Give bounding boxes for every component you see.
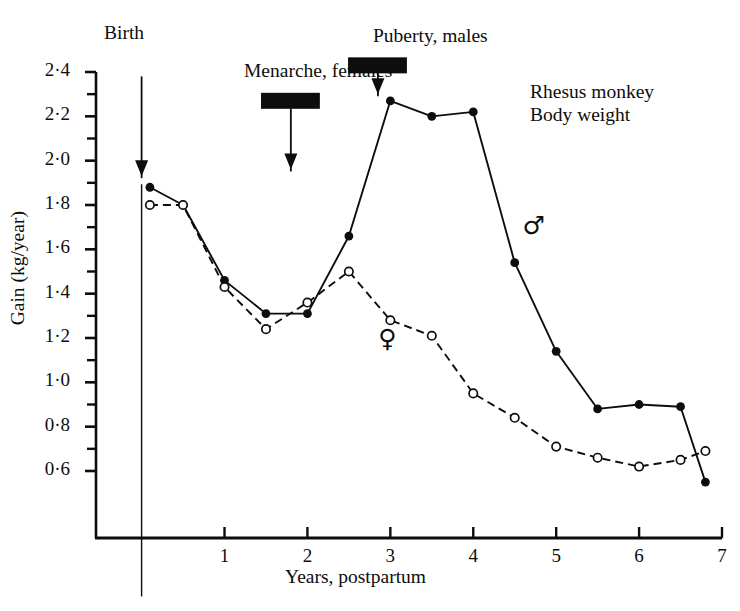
data-point-females [552, 442, 560, 450]
data-point-males [469, 108, 478, 117]
data-point-females [511, 414, 519, 422]
menarche-range-bar [261, 93, 320, 109]
y-tick-label: 2·0 [24, 149, 70, 169]
data-point-males [427, 112, 436, 121]
y-tick-label: 1·8 [24, 193, 70, 213]
y-tick-label: 1·0 [24, 370, 70, 390]
data-point-males [344, 232, 353, 241]
female-sex-symbol: ♀ [378, 326, 396, 352]
data-point-females [220, 283, 228, 291]
data-point-males [262, 309, 271, 318]
data-point-males [386, 96, 395, 105]
x-axis-title: Years, postpartum [285, 567, 426, 587]
y-tick-label: 2·4 [24, 60, 70, 80]
y-tick-label: 2·2 [24, 104, 70, 124]
data-point-females [386, 316, 394, 324]
chart-note-line-1: Rhesus monkey [530, 80, 654, 103]
annotation-label-menarche: Menarche, females [244, 61, 392, 81]
data-point-females [146, 201, 154, 209]
axis-lines [85, 72, 722, 538]
x-tick-label: 4 [460, 546, 486, 566]
data-point-females [345, 267, 353, 275]
y-axis-title-wrapper: Gain (kg/year) [8, 188, 28, 348]
data-point-females [676, 456, 684, 464]
x-tick-label: 5 [543, 546, 569, 566]
data-point-females [635, 462, 643, 470]
y-tick-label: 1·4 [24, 282, 70, 302]
data-point-males [510, 258, 519, 267]
data-point-males [303, 309, 312, 318]
annotation-label-puberty: Puberty, males [373, 26, 488, 46]
data-point-males [593, 405, 602, 414]
x-tick-label: 2 [294, 546, 320, 566]
x-tick-label: 7 [709, 546, 735, 566]
annotation-label-birth: Birth [104, 23, 144, 43]
y-tick-label: 0·6 [24, 459, 70, 479]
x-tick-label: 3 [377, 546, 403, 566]
chart-note-line-2: Body weight [530, 103, 630, 126]
series-line-males [150, 101, 706, 482]
data-point-males [552, 347, 561, 356]
menarche-arrow-head [284, 154, 297, 170]
data-point-males [635, 400, 644, 409]
y-tick-label: 1·2 [24, 326, 70, 346]
male-sex-symbol: ♂ [523, 213, 545, 239]
x-tick-label: 1 [212, 546, 238, 566]
birth-arrow-head [135, 160, 148, 176]
data-point-females [701, 447, 709, 455]
data-point-females [262, 325, 270, 333]
data-point-females [428, 332, 436, 340]
data-point-males [676, 402, 685, 411]
y-tick-label: 0·8 [24, 415, 70, 435]
data-point-females [303, 298, 311, 306]
chart-figure: 0·60·81·01·21·41·61·82·02·22·41234567 Ga… [0, 0, 740, 611]
data-point-females [179, 201, 187, 209]
data-point-males [145, 183, 154, 192]
data-point-males [701, 478, 710, 487]
y-tick-label: 1·6 [24, 237, 70, 257]
data-point-females [469, 389, 477, 397]
data-series-layer [145, 96, 709, 486]
data-point-females [593, 454, 601, 462]
x-tick-label: 6 [626, 546, 652, 566]
y-axis-title: Gain (kg/year) [7, 211, 28, 325]
